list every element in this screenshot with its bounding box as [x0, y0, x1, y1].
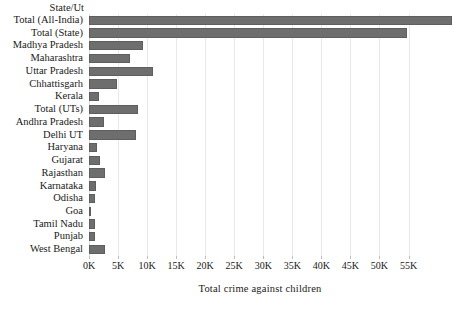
bar: [89, 194, 95, 203]
bar: [89, 245, 105, 254]
bar-row: [89, 129, 455, 142]
bar-row: [89, 154, 455, 167]
x-tick-label: 15K: [168, 260, 185, 271]
bar-row: [89, 52, 455, 65]
bar-row: [89, 167, 455, 180]
bar: [89, 105, 138, 114]
x-tick-label: 5K: [112, 260, 124, 271]
x-tick-label: 45K: [342, 260, 359, 271]
x-tick-label: 30K: [255, 260, 272, 271]
x-tick: [263, 256, 264, 259]
bar: [89, 143, 97, 152]
bar: [89, 16, 452, 25]
bar-row: [89, 14, 455, 27]
x-tick-label: 55K: [400, 260, 417, 271]
plot-area: [89, 14, 455, 256]
x-tick: [234, 256, 235, 259]
bar-row: [89, 218, 455, 231]
bar: [89, 207, 91, 216]
bar-row: [89, 78, 455, 91]
bar: [89, 41, 143, 50]
x-axis-title: Total crime against children: [0, 283, 460, 294]
x-tick: [147, 256, 148, 259]
x-tick-label: 35K: [284, 260, 301, 271]
bar: [89, 67, 153, 76]
category-label: Madhya Pradesh: [0, 39, 86, 52]
category-label: West Bengal: [0, 243, 86, 256]
category-axis-labels: State/Ut Total (All-India)Total (State)M…: [0, 14, 86, 256]
bar: [89, 232, 95, 241]
category-label: Kerala: [0, 90, 86, 103]
x-tick: [409, 256, 410, 259]
bar: [89, 168, 105, 177]
bar-chart: State/Ut Total (All-India)Total (State)M…: [0, 0, 460, 309]
category-label: Tamil Nadu: [0, 218, 86, 231]
x-tick-label: 0K: [83, 260, 95, 271]
category-label: Andhra Pradesh: [0, 116, 86, 129]
bar-row: [89, 243, 455, 256]
bar-row: [89, 39, 455, 52]
y-axis-header: State/Ut: [50, 2, 84, 14]
category-label: Karnataka: [0, 180, 86, 193]
x-tick-label: 25K: [226, 260, 243, 271]
category-label: Haryana: [0, 141, 86, 154]
bar-row: [89, 230, 455, 243]
bar-row: [89, 27, 455, 40]
category-label: Maharashtra: [0, 52, 86, 65]
bar-row: [89, 90, 455, 103]
x-tick-label: 40K: [313, 260, 330, 271]
bar: [89, 130, 136, 139]
x-tick: [292, 256, 293, 259]
x-axis: 0K5K10K15K20K25K30K35K40K45K50K55K: [89, 256, 455, 276]
bar: [89, 117, 104, 126]
category-label: Uttar Pradesh: [0, 65, 86, 78]
bar-row: [89, 192, 455, 205]
x-tick: [379, 256, 380, 259]
bar: [89, 92, 99, 101]
x-tick: [321, 256, 322, 259]
category-label: Goa: [0, 205, 86, 218]
x-tick: [118, 256, 119, 259]
bar: [89, 219, 95, 228]
x-tick: [350, 256, 351, 259]
bar-row: [89, 205, 455, 218]
bar-row: [89, 180, 455, 193]
bar: [89, 28, 407, 37]
x-tick-label: 10K: [138, 260, 155, 271]
x-tick: [176, 256, 177, 259]
category-label: Gujarat: [0, 154, 86, 167]
x-axis-title-text: Total crime against children: [199, 283, 322, 294]
bar-rows: [89, 14, 455, 256]
bar-row: [89, 116, 455, 129]
bar: [89, 79, 117, 88]
category-label: Total (All-India): [0, 14, 86, 27]
category-label: Chhattisgarh: [0, 78, 86, 91]
bar: [89, 156, 100, 165]
x-tick: [89, 256, 90, 259]
bar-row: [89, 141, 455, 154]
bar-row: [89, 65, 455, 78]
bar: [89, 181, 96, 190]
category-label: Delhi UT: [0, 129, 86, 142]
x-tick-label: 20K: [197, 260, 214, 271]
category-label: Punjab: [0, 230, 86, 243]
x-tick-label: 50K: [371, 260, 388, 271]
bar-row: [89, 103, 455, 116]
bar: [89, 54, 130, 63]
category-label: Rajasthan: [0, 167, 86, 180]
x-tick: [205, 256, 206, 259]
category-label: Odisha: [0, 192, 86, 205]
category-label: Total (UTs): [0, 103, 86, 116]
category-label: Total (State): [0, 27, 86, 40]
